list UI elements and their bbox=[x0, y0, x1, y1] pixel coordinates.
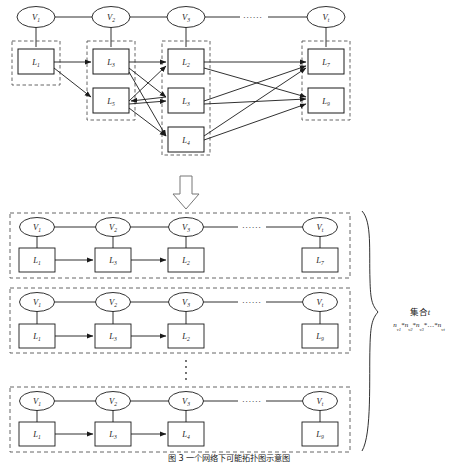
vertical-ellipsis-dots bbox=[185, 360, 187, 380]
group-3-graph bbox=[19, 392, 338, 447]
horizontal-ellipsis: ...... bbox=[242, 394, 262, 404]
brace-title: 集合t bbox=[410, 305, 430, 317]
down-arrow-glyph bbox=[173, 176, 199, 209]
brace-title-cn: 集合 bbox=[410, 307, 428, 317]
group-2-graph bbox=[19, 293, 338, 349]
figure-caption: 图 3 一个网络下可能拓扑图示意图 bbox=[168, 451, 290, 463]
horizontal-ellipsis: ...... bbox=[242, 295, 262, 305]
horizontal-ellipsis: ...... bbox=[243, 10, 263, 20]
top-level-boxes bbox=[18, 49, 344, 152]
right-curly-brace bbox=[362, 211, 378, 451]
brace-title-var: t bbox=[428, 307, 430, 317]
horizontal-ellipsis: ...... bbox=[242, 220, 262, 230]
brace-formula: nv1*nv2*nv3*…*nvt bbox=[393, 321, 444, 330]
group-1-graph bbox=[19, 218, 338, 273]
top-level-back-edges bbox=[131, 97, 166, 101]
